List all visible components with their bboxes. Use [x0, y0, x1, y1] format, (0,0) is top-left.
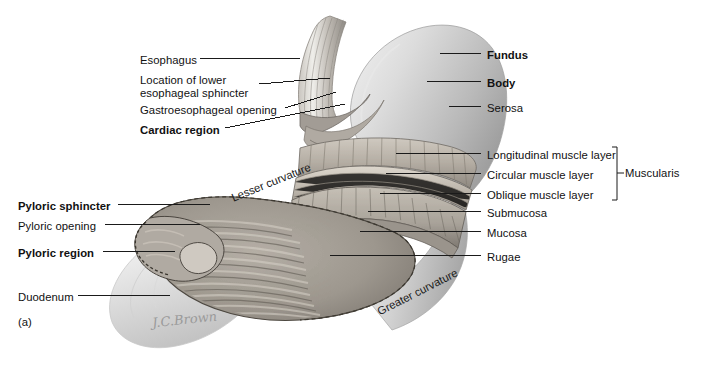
label-line-2: esophageal sphincter: [140, 87, 248, 99]
label-serosa: Serosa: [487, 102, 523, 115]
label-circular-muscle-layer: Circular muscle layer: [487, 169, 594, 182]
label-leader-lines: [0, 0, 701, 377]
label-mucosa: Mucosa: [487, 227, 527, 240]
label-fundus: Fundus: [487, 49, 528, 62]
label-muscularis: Muscularis: [625, 167, 680, 180]
label-oblique-muscle-layer: Oblique muscle layer: [487, 189, 593, 202]
label-gastroesophageal-opening: Gastroesophageal opening: [140, 104, 277, 117]
label-pyloric-sphincter: Pyloric sphincter: [18, 200, 111, 213]
label-body: Body: [487, 77, 515, 90]
label-submucosa: Submucosa: [487, 207, 547, 220]
label-duodenum: Duodenum: [18, 291, 74, 304]
label-cardiac-region: Cardiac region: [140, 124, 220, 137]
leader-line-gastroesophageal-opening: [285, 92, 336, 108]
label-line-1: Location of lower: [140, 74, 226, 86]
label-esophagus: Esophagus: [140, 54, 197, 67]
leader-line-lower-esoph-sphincter: [259, 78, 330, 84]
label-rugae: Rugae: [487, 251, 521, 264]
label-pyloric-opening: Pyloric opening: [18, 220, 96, 233]
stomach-anatomy-figure: Esophagus Location of lower esophageal s…: [0, 0, 701, 377]
panel-letter: (a): [18, 316, 32, 328]
label-lower-esophageal-sphincter: Location of lower esophageal sphincter: [140, 74, 248, 99]
label-pyloric-region: Pyloric region: [18, 247, 94, 260]
label-longitudinal-muscle-layer: Longitudinal muscle layer: [487, 149, 616, 162]
